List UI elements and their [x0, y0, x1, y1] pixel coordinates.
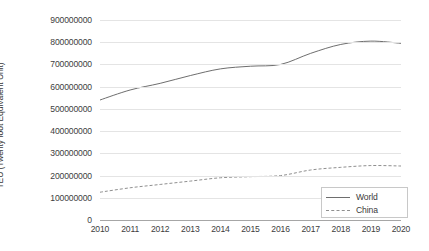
- x-tick-label: 2013: [181, 224, 200, 234]
- y-tick-label: 300000000: [50, 148, 92, 158]
- x-tick-label: 2020: [392, 224, 411, 234]
- y-tick-label: 100000000: [50, 193, 92, 203]
- x-tick-label: 2019: [362, 224, 381, 234]
- legend-label-china: China: [356, 205, 378, 215]
- gridline: [100, 176, 401, 177]
- x-tick-label: 2014: [211, 224, 230, 234]
- y-axis-title: TEU (Twenty foot Equivalent Unit): [0, 0, 26, 251]
- y-tick-label: 200000000: [50, 171, 92, 181]
- x-tick-label: 2018: [332, 224, 351, 234]
- line-chart: TEU (Twenty foot Equivalent Unit) 900000…: [0, 0, 429, 251]
- y-tick-label: 500000000: [50, 104, 92, 114]
- legend-label-world: World: [356, 192, 378, 202]
- x-tick-label: 2016: [271, 224, 290, 234]
- x-tick-label: 2010: [91, 224, 110, 234]
- x-tick-label: 2011: [121, 224, 139, 234]
- x-axis-line: [100, 220, 401, 221]
- y-tick-label: 600000000: [50, 82, 92, 92]
- legend-item-china[interactable]: China: [326, 204, 403, 216]
- legend-line-solid-icon: [326, 193, 350, 201]
- series-line-world: [100, 41, 401, 100]
- gridline: [100, 42, 401, 43]
- legend-line-dashed-icon: [326, 206, 350, 214]
- gridline: [100, 20, 401, 21]
- y-tick-label: 800000000: [50, 37, 92, 47]
- gridline: [100, 153, 401, 154]
- gridline: [100, 109, 401, 110]
- x-tick-label: 2015: [241, 224, 260, 234]
- chart-legend: World China: [321, 187, 408, 218]
- y-tick-label: 700000000: [50, 59, 92, 69]
- gridline: [100, 64, 401, 65]
- y-axis-tick-labels: 9000000008000000007000000006000000005000…: [24, 0, 96, 251]
- y-tick-label: 900000000: [50, 15, 92, 25]
- legend-item-world[interactable]: World: [326, 191, 403, 203]
- x-tick-label: 2017: [301, 224, 320, 234]
- y-tick-label: 400000000: [50, 126, 92, 136]
- x-axis-tick-labels: 2010201120122013201420152016201720182019…: [100, 224, 401, 244]
- gridline: [100, 131, 401, 132]
- gridline: [100, 87, 401, 88]
- x-tick-label: 2012: [151, 224, 170, 234]
